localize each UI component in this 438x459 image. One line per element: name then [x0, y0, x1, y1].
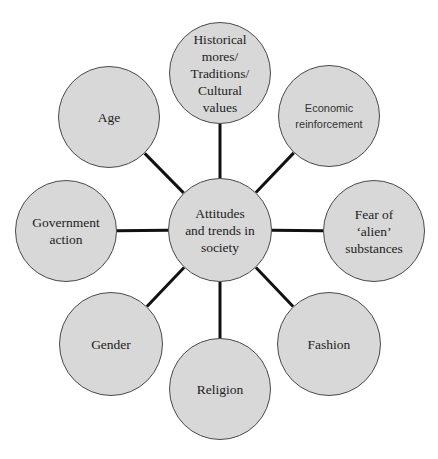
node-historical: Historical mores/ Traditions/ Cultural v… [169, 22, 271, 124]
node-fear-label: Fear of ‘alien’ substances [345, 206, 403, 257]
center-node-label: Attitudes and trends in society [185, 205, 255, 256]
node-fashion: Fashion [277, 292, 381, 396]
connector-fashion [256, 268, 293, 307]
node-age-label: Age [98, 109, 121, 126]
connector-gender [147, 268, 184, 307]
node-religion: Religion [169, 338, 271, 440]
node-gender: Gender [59, 292, 163, 396]
node-historical-label: Historical mores/ Traditions/ Cultural v… [191, 31, 250, 116]
node-government: Government action [15, 180, 117, 282]
node-economic-label: Economic reinforcement [295, 100, 362, 132]
node-government-label: Government action [32, 214, 99, 248]
node-fear: Fear of ‘alien’ substances [323, 180, 425, 282]
node-fashion-label: Fashion [308, 336, 351, 353]
node-economic: Economic reinforcement [278, 65, 380, 167]
node-gender-label: Gender [91, 336, 131, 353]
node-age: Age [58, 66, 160, 168]
center-node: Attitudes and trends in society [168, 178, 272, 282]
node-religion-label: Religion [197, 381, 244, 398]
mind-map-diagram: Attitudes and trends in societyHistorica… [0, 0, 438, 459]
connector-age [145, 153, 184, 193]
connector-economic [256, 153, 294, 193]
